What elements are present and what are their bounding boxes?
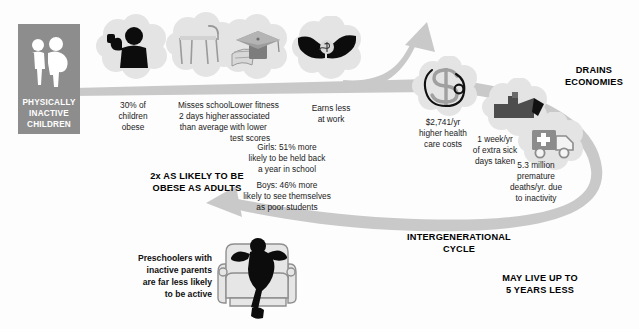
heading-drains-economies: DRAINS ECONOMIES [554, 64, 634, 88]
heading-may-live-less: MAY LIVE UP TO 5 YEARS LESS [484, 272, 596, 296]
badge-label: PHYSICALLY INACTIVE CHILDREN [22, 97, 75, 130]
caption-fitness: Lower fitness associated with lower test… [230, 100, 302, 144]
heading-intergenerational-cycle: INTERGENERATIONAL CYCLE [398, 231, 520, 255]
cloud-blob-fitness [218, 14, 290, 80]
two-children-silhouette-icon [18, 24, 80, 97]
preschool-caption: Preschoolers with inactive parents are f… [100, 252, 212, 300]
caption-obese: 30% of children obese [96, 100, 170, 133]
caption-earns: Earns less at work [300, 103, 362, 125]
cloud-blob-healthcost [412, 56, 482, 118]
physically-inactive-children-badge: PHYSICALLY INACTIVE CHILDREN [18, 24, 80, 134]
cloud-blob-obese [96, 14, 170, 80]
caption-deaths: 5.3 million premature deaths/yr. due to … [497, 160, 575, 204]
infographic-canvas: PHYSICALLY INACTIVE CHILDREN 30% of chil… [0, 0, 639, 329]
cloud-blob-earns [292, 16, 364, 80]
person-slouching-on-armchair-icon [212, 230, 308, 329]
heading-obese-adults: 2x AS LIKELY TO BE OBESE AS ADULTS [136, 170, 258, 194]
